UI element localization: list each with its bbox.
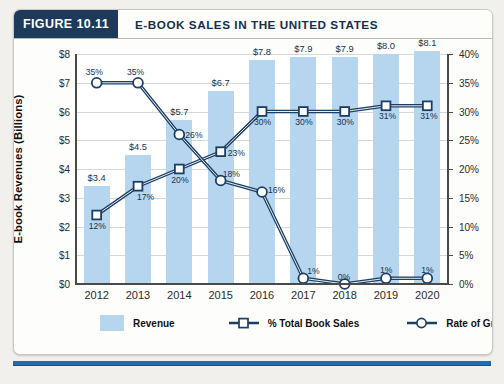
right-axis-tick-label: 20% [459, 164, 493, 175]
rate-of-growth-marker [133, 78, 143, 88]
right-axis-tick-label: 10% [459, 221, 493, 232]
left-axis-line [75, 54, 77, 285]
pct-total-book-sales-marker [216, 147, 225, 156]
right-axis-tick-label: 5% [459, 250, 493, 261]
legend-label-pct-total-book-sales: % Total Book Sales [268, 318, 360, 329]
bottom-axis-line [75, 283, 449, 285]
pct-total-book-sales-label: 23% [228, 148, 245, 158]
figure-header: FIGURE 10.11 E-BOOK SALES IN THE UNITED … [14, 10, 492, 39]
x-axis-tick-label: 2013 [115, 289, 161, 301]
legend-item-revenue: Revenue [100, 315, 175, 331]
legend-marker-square-icon [229, 317, 259, 329]
rate-of-growth-label: 1% [380, 265, 392, 275]
rate-of-growth-marker [174, 130, 184, 140]
pct-total-book-sales-label: 31% [420, 111, 437, 121]
right-axis-tick-label: 40% [459, 49, 493, 60]
y-axis-title: E-book Revenues (Billions) [13, 54, 26, 284]
chart-legend: Revenue % Total Book Sales Rate of Growt… [76, 312, 456, 334]
legend-label-revenue: Revenue [133, 318, 175, 329]
bar-value-label: $8.1 [404, 38, 450, 48]
right-axis-tick [448, 169, 453, 170]
left-axis-tick-label: $1 [40, 250, 70, 261]
bar-value-label: $6.7 [198, 78, 244, 88]
right-axis-tick [448, 227, 453, 228]
rate-of-growth-marker [257, 187, 267, 197]
x-axis-tick-label: 2012 [74, 289, 120, 301]
rate-of-growth-label: 1% [307, 266, 319, 276]
right-axis-tick [448, 255, 453, 256]
rate-of-growth-label: 0% [338, 272, 350, 282]
pct-total-book-sales-marker [175, 165, 184, 174]
pct-total-book-sales-marker [258, 107, 267, 116]
x-axis-tick-label: 2015 [198, 289, 244, 301]
rate-of-growth-label: 35% [86, 67, 103, 77]
bar-value-label: $7.8 [239, 47, 285, 57]
bar-value-label: $5.7 [156, 107, 202, 117]
right-axis-tick-label: 30% [459, 106, 493, 117]
bar-value-label: $7.9 [322, 44, 368, 54]
rate-of-growth-label: 35% [127, 67, 144, 77]
rate-of-growth-label: 1% [421, 265, 433, 275]
pct-total-book-sales-label: 12% [89, 221, 106, 231]
rate-of-growth-label: 16% [268, 185, 285, 195]
right-axis-tick [448, 112, 453, 113]
pct-total-book-sales-marker [340, 107, 349, 116]
line-series [76, 54, 448, 284]
rate-of-growth-label: 26% [185, 130, 202, 140]
right-axis-tick [448, 83, 453, 84]
x-axis-tick-label: 2019 [363, 289, 409, 301]
right-axis-tick-label: 35% [459, 77, 493, 88]
bar-value-label: $4.5 [115, 142, 161, 152]
right-axis-tick-label: 15% [459, 192, 493, 203]
left-axis-tick-label: $4 [40, 164, 70, 175]
pct-total-book-sales-label: 31% [379, 111, 396, 121]
right-axis-tick [448, 140, 453, 141]
right-axis-tick [448, 198, 453, 199]
right-axis-tick [448, 54, 453, 55]
legend-marker-circle-icon [407, 317, 437, 329]
pct-total-book-sales-marker [92, 211, 101, 220]
x-axis-tick-label: 2018 [322, 289, 368, 301]
x-axis-tick-label: 2016 [239, 289, 285, 301]
x-axis-tick-label: 2017 [280, 289, 326, 301]
rate-of-growth-label: 18% [223, 169, 240, 179]
pct-total-book-sales-marker [134, 182, 143, 191]
figure-page: FIGURE 10.11 E-BOOK SALES IN THE UNITED … [0, 0, 504, 384]
right-axis-tick-label: 0% [459, 279, 493, 290]
pct-total-book-sales-label: 30% [337, 117, 354, 127]
pct-total-book-sales-marker [382, 101, 391, 110]
pct-total-book-sales-label: 17% [137, 192, 154, 202]
x-axis-tick-label: 2020 [404, 289, 450, 301]
pct-total-book-sales-label: 20% [171, 175, 188, 185]
legend-item-rate-of-growth: Rate of Growth [407, 317, 493, 329]
pct-total-book-sales-label: 30% [254, 117, 271, 127]
legend-item-pct-total-book-sales: % Total Book Sales [229, 317, 360, 329]
legend-swatch-revenue-icon [100, 315, 124, 331]
figure-title: E-BOOK SALES IN THE UNITED STATES [118, 10, 492, 38]
pct-total-book-sales-label: 30% [295, 117, 312, 127]
left-axis-tick-label: $8 [40, 49, 70, 60]
x-axis-tick-label: 2014 [156, 289, 202, 301]
left-axis-tick-label: $7 [40, 77, 70, 88]
figure-card: FIGURE 10.11 E-BOOK SALES IN THE UNITED … [13, 9, 493, 355]
pct-total-book-sales-marker [299, 107, 308, 116]
left-axis-tick-label: $5 [40, 135, 70, 146]
rate-of-growth-marker [92, 78, 102, 88]
bar-value-label: $7.9 [280, 44, 326, 54]
left-axis-tick-label: $3 [40, 192, 70, 203]
pct-total-book-sales-marker [423, 101, 432, 110]
legend-label-rate-of-growth: Rate of Growth [446, 318, 493, 329]
plot-area [76, 54, 448, 284]
bar-value-label: $8.0 [363, 41, 409, 51]
left-axis-tick-label: $6 [40, 106, 70, 117]
footer-rule [13, 361, 491, 365]
right-axis-tick-label: 25% [459, 135, 493, 146]
y-axis-title-label: E-book Revenues (Billions) [13, 95, 24, 244]
left-axis-tick-label: $2 [40, 221, 70, 232]
figure-number-badge: FIGURE 10.11 [14, 10, 118, 38]
bar-value-label: $3.4 [74, 173, 120, 183]
left-axis-tick-label: $0 [40, 279, 70, 290]
right-axis-tick [448, 284, 453, 285]
